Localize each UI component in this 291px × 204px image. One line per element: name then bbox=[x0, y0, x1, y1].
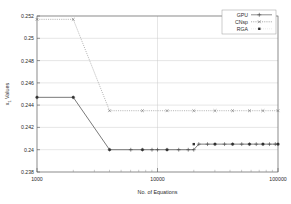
chart-figure: 0.252 0.25 0.248 0.246 0.244 0.242 0.24 … bbox=[0, 0, 291, 204]
y-tick-label: 0.242 bbox=[21, 124, 34, 130]
x-axis-title: No. of Equations bbox=[138, 189, 178, 195]
data-point-marker bbox=[141, 149, 143, 151]
y-axis-label: x1 Values bbox=[4, 82, 12, 105]
x-tick-label: 100000 bbox=[269, 176, 286, 182]
data-point-marker bbox=[141, 109, 144, 112]
y-tick-label: 0.248 bbox=[21, 58, 34, 64]
x-tick-label: 1000 bbox=[31, 176, 43, 182]
data-point-marker bbox=[166, 149, 168, 151]
x-tick-label: 10000 bbox=[150, 176, 165, 182]
data-point-marker bbox=[186, 148, 190, 152]
y-tick-label: 0.244 bbox=[21, 102, 34, 108]
data-point-marker bbox=[108, 109, 111, 112]
data-point-marker bbox=[223, 142, 227, 146]
data-point-marker bbox=[206, 142, 210, 146]
y-tick-label: 0.252 bbox=[21, 13, 34, 19]
data-point-marker bbox=[231, 109, 234, 112]
legend-box bbox=[222, 10, 276, 34]
y-tick-label: 0.24 bbox=[24, 147, 34, 153]
data-point-marker bbox=[248, 143, 250, 145]
data-point-marker bbox=[108, 149, 110, 151]
data-point-marker bbox=[150, 148, 154, 152]
data-point-marker bbox=[268, 142, 272, 146]
y-tick-label: 0.246 bbox=[21, 80, 34, 86]
data-point-marker bbox=[254, 142, 258, 146]
legend-label-cnsp: CNsp bbox=[235, 19, 248, 25]
data-point-marker bbox=[36, 96, 38, 98]
data-point-marker bbox=[129, 148, 133, 152]
y-axis-title: x1 Values bbox=[4, 82, 12, 105]
legend-label-gpu: GPU bbox=[237, 12, 248, 18]
legend-marker-rga bbox=[258, 28, 260, 30]
data-point-marker bbox=[156, 148, 160, 152]
data-point-marker bbox=[231, 143, 233, 145]
data-point-marker bbox=[277, 143, 279, 145]
plot-canvas: 0.252 0.25 0.248 0.246 0.244 0.242 0.24 … bbox=[0, 0, 291, 204]
data-point-marker bbox=[262, 143, 264, 145]
data-point-marker bbox=[214, 143, 216, 145]
data-point-marker bbox=[193, 143, 195, 145]
x-axis-label: No. of Equations bbox=[138, 189, 178, 195]
y-axis-label-rest: Values bbox=[4, 82, 10, 100]
data-point-marker bbox=[72, 96, 74, 98]
legend-label-rga: RGA bbox=[237, 26, 249, 32]
data-point-marker bbox=[214, 109, 217, 112]
x-axis-ticks: 1000 10000 100000 bbox=[31, 168, 287, 182]
legend: GPU CNsp RGA bbox=[222, 10, 276, 34]
data-point-marker bbox=[177, 148, 181, 152]
y-tick-label: 0.25 bbox=[24, 35, 34, 41]
data-point-marker bbox=[240, 142, 244, 146]
y-tick-label: 0.238 bbox=[21, 169, 34, 175]
data-point-marker bbox=[166, 109, 169, 112]
